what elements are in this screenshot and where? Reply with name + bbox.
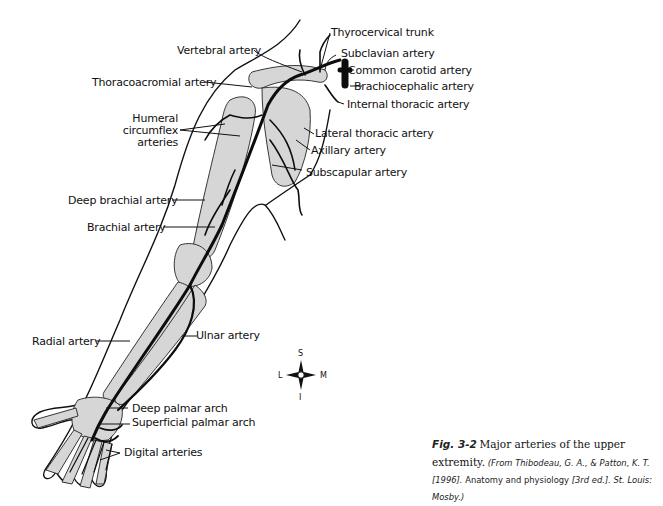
- caption-figure-number: Fig. 3-2: [432, 438, 477, 450]
- label-ulnar-artery: Ulnar artery: [196, 329, 260, 342]
- compass-rose-icon: [286, 360, 316, 390]
- label-deep-palmar-arch: Deep palmar arch: [132, 402, 228, 415]
- label-deep-brachial-artery: Deep brachial artery: [68, 194, 177, 207]
- caption-source-book: Anatomy and physiology: [465, 475, 569, 485]
- label-superficial-palmar-arch: Superficial palmar arch: [132, 416, 255, 429]
- label-humeral-circumflex-3: arteries: [128, 136, 178, 149]
- label-lateral-thoracic-artery: Lateral thoracic artery: [315, 127, 433, 140]
- label-brachial-artery: Brachial artery: [87, 221, 166, 234]
- label-brachiocephalic-artery: Brachiocephalic artery: [354, 80, 474, 93]
- label-axillary-artery: Axillary artery: [311, 144, 386, 157]
- figure-caption: Fig. 3-2 Major arteries of the upper ext…: [432, 436, 663, 506]
- label-subscapular-artery: Subscapular artery: [306, 166, 407, 179]
- label-thyrocervical-trunk: Thyrocervical trunk: [331, 26, 434, 39]
- compass-superior: S: [298, 349, 303, 358]
- compass-inferior: I: [299, 393, 301, 402]
- compass-medial: M: [320, 371, 327, 380]
- label-thoracoacromial-artery: Thoracoacromial artery: [92, 76, 216, 89]
- label-digital-arteries: Digital arteries: [124, 446, 202, 459]
- label-radial-artery: Radial artery: [32, 335, 100, 348]
- label-common-carotid-artery: Common carotid artery: [348, 64, 472, 77]
- label-internal-thoracic-artery: Internal thoracic artery: [347, 98, 469, 111]
- compass-lateral: L: [278, 371, 282, 380]
- label-subclavian-artery: Subclavian artery: [341, 47, 435, 60]
- label-vertebral-artery: Vertebral artery: [177, 44, 261, 57]
